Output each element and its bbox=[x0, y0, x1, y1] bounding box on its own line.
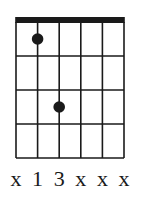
string-label-1: x bbox=[6, 166, 26, 192]
nut bbox=[15, 17, 125, 23]
string-label-3: 3 bbox=[49, 166, 69, 192]
string-label-4: x bbox=[71, 166, 91, 192]
string-labels: x 1 3 x x x bbox=[0, 166, 142, 196]
string-label-2: 1 bbox=[28, 166, 48, 192]
finger-dot-2 bbox=[53, 101, 65, 113]
finger-dot-1 bbox=[32, 33, 44, 45]
fret-lines bbox=[16, 56, 124, 158]
string-label-5: x bbox=[92, 166, 112, 192]
string-label-6: x bbox=[114, 166, 134, 192]
finger-dots bbox=[32, 33, 65, 113]
